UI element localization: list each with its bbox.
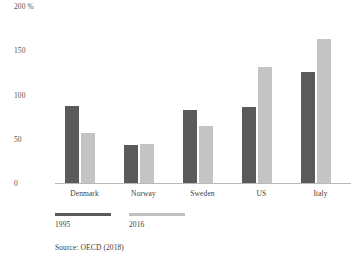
- bars-row: [232, 6, 291, 183]
- bar-group-us: [232, 6, 291, 183]
- legend-label-2016: 2016: [129, 220, 185, 229]
- bars-row: [55, 6, 114, 183]
- bar-sweden-2016: [199, 126, 213, 183]
- bars-row: [173, 6, 232, 183]
- legend-item-2016: 2016: [129, 213, 185, 229]
- bar-italy-1995: [301, 72, 315, 183]
- bar-denmark-2016: [81, 133, 95, 183]
- legend-swatch-1995-icon: [55, 213, 111, 216]
- y-axis-label-150: 150: [14, 46, 50, 55]
- y-axis-label-100: 100: [14, 91, 50, 100]
- bar-chart-figure: 200 % 150 100 50 0: [0, 0, 358, 269]
- y-axis-label-0: 0: [14, 179, 50, 188]
- chart-legend: 1995 2016: [55, 213, 345, 237]
- x-axis-baseline: [55, 183, 351, 184]
- x-axis-label-us: US: [232, 189, 291, 198]
- x-axis-label-sweden: Sweden: [173, 189, 232, 198]
- bar-group-italy: [291, 6, 350, 183]
- legend-item-1995: 1995: [55, 213, 111, 229]
- legend-label-1995: 1995: [55, 220, 111, 229]
- bar-norway-1995: [124, 145, 138, 183]
- bar-norway-2016: [140, 144, 154, 183]
- bars-row: [291, 6, 350, 183]
- bar-denmark-1995: [65, 106, 79, 183]
- bar-group-sweden: [173, 6, 232, 183]
- bar-us-1995: [242, 107, 256, 183]
- bar-italy-2016: [317, 39, 331, 183]
- x-axis-label-norway: Norway: [114, 189, 173, 198]
- x-axis-label-denmark: Denmark: [55, 189, 114, 198]
- legend-swatch-2016-icon: [129, 213, 185, 216]
- bar-group-norway: [114, 6, 173, 183]
- x-axis-label-italy: Italy: [291, 189, 350, 198]
- y-axis-label-50: 50: [14, 135, 50, 144]
- y-axis-label-200: 200 %: [14, 2, 50, 11]
- bar-us-2016: [258, 67, 272, 183]
- bars-row: [114, 6, 173, 183]
- bar-sweden-1995: [183, 110, 197, 183]
- plot-area: [55, 6, 350, 183]
- bar-group-denmark: [55, 6, 114, 183]
- source-note: Source: OECD (2018): [55, 243, 124, 252]
